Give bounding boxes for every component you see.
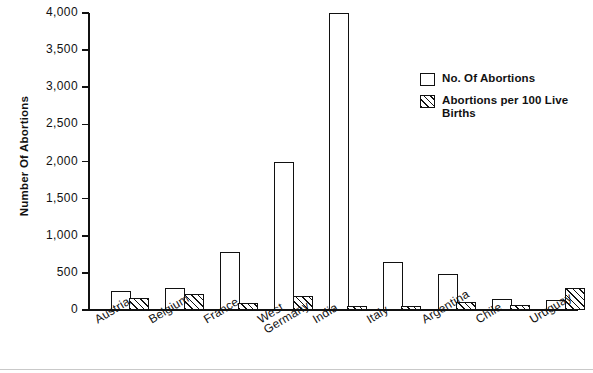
x-tick-label: Italy [365, 304, 391, 326]
bar-abortions-per-100-live-births [347, 306, 367, 310]
bar-no-of-abortions [383, 262, 403, 310]
y-tick-label: 4,000 [8, 5, 78, 19]
legend-item-no-of-abortions: No. Of Abortions [420, 72, 568, 85]
legend-swatch-open-box [420, 73, 435, 86]
legend-item-abortions-per-100-live-births: Abortions per 100 Live Births [420, 94, 568, 120]
y-tick-mark [82, 272, 89, 274]
chart-legend: No. Of Abortions Abortions per 100 Live … [420, 72, 568, 129]
y-tick-label: 1,000 [8, 228, 78, 242]
x-tick-label: India [311, 302, 340, 326]
y-tick-label: 500 [8, 265, 78, 279]
y-tick-label: 1,500 [8, 191, 78, 205]
x-tick-label: Chile [474, 301, 504, 325]
y-tick-label: 2,000 [8, 154, 78, 168]
bar-abortions-per-100-live-births [401, 306, 421, 310]
bar-chart: Number Of Abortions 4,0003,5003,0002,500… [0, 0, 593, 373]
bar-abortions-per-100-live-births [510, 305, 530, 310]
y-tick-mark [82, 49, 89, 51]
y-tick-mark [82, 124, 89, 126]
legend-label-abortions-per-100-live-births: Abortions per 100 Live Births [442, 94, 568, 120]
legend-label-no-of-abortions: No. Of Abortions [442, 72, 568, 85]
y-tick-label: 0 [8, 302, 78, 316]
y-tick-mark [82, 12, 89, 14]
bar-group [383, 309, 423, 310]
y-tick-label: 3,000 [8, 79, 78, 93]
bar-abortions-per-100-live-births [129, 298, 149, 310]
y-tick-mark [82, 198, 89, 200]
footer-divider [0, 369, 593, 370]
legend-swatch-hatched-box [420, 95, 435, 108]
y-tick-mark [82, 309, 89, 311]
y-tick-label: 2,500 [8, 116, 78, 130]
y-tick-label: 3,500 [8, 42, 78, 56]
y-tick-mark [82, 235, 89, 237]
bar-no-of-abortions [274, 162, 294, 311]
bar-abortions-per-100-live-births [238, 303, 258, 310]
y-tick-mark [82, 161, 89, 163]
bar-no-of-abortions [329, 13, 349, 310]
y-tick-mark [82, 86, 89, 88]
